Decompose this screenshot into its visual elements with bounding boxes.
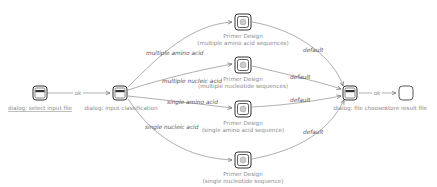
node-primer-design-multi-nt[interactable]: Primer Design (multiple nucleotide seque… [198,57,288,90]
node-select-input-file[interactable]: dialog: select input file [8,86,72,112]
node-store-result-file[interactable]: store result file [385,86,428,111]
node-label: Primer Design [223,33,263,40]
node-label: Primer Design [223,171,263,178]
node-label: Primer Design [223,120,263,127]
edge-chooser-to-store[interactable]: ok [359,89,396,96]
node-sublabel: (single nucleotide sequence) [203,178,284,185]
edge-label-default-3: default [290,97,311,103]
edge-select-to-classification[interactable]: ok [42,89,110,96]
edge-label-single-nt: single nucleic acid [145,124,199,131]
edge-label-default-4: default [303,129,324,135]
dialog-icon [33,86,47,100]
node-sublabel: (multiple amino acid sequences) [197,40,288,47]
edge-label-ok-2: ok [374,90,381,96]
node-label: store result file [385,105,428,111]
service-icon [235,101,251,117]
edge-label-ok: ok [75,90,82,96]
dialog-icon [113,86,127,100]
node-label: Primer Design [223,76,263,83]
service-icon [235,152,251,168]
node-label: dialog: select input file [8,105,72,112]
edge-label-default-1: default [303,47,324,53]
node-sublabel: (multiple nucleotide sequences) [198,83,288,90]
edge-label-default-2: default [290,74,311,80]
edge-label-multi-aa: multiple amino acid [146,50,204,57]
node-primer-design-single-nt[interactable]: Primer Design (single nucleotide sequenc… [203,152,284,185]
node-primer-design-multi-aa[interactable]: Primer Design (multiple amino acid seque… [197,14,288,47]
node-label: dialog: file chooser [333,105,387,112]
dialog-icon [343,86,357,100]
edge-label-single-aa: single amino acid [167,99,218,106]
service-icon [235,57,251,73]
workflow-diagram: ok multiple amino acid multiple nucleic … [0,0,437,187]
node-label: dialog: input classification [84,105,158,112]
end-node-icon [399,86,413,100]
node-sublabel: (single amino acid sequence) [202,127,284,134]
edge-single-aa-to-chooser[interactable]: default [252,96,341,107]
node-input-classification[interactable]: dialog: input classification [84,86,158,112]
service-icon [235,14,251,30]
